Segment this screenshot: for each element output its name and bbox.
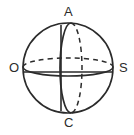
vertex-label-o: O <box>9 61 19 74</box>
meridian-back-arc-dashed <box>71 23 82 113</box>
equator-back-arc-dashed <box>23 58 113 67</box>
sphere-diagram: A C O S <box>0 0 134 135</box>
sphere-outline-circle <box>23 23 113 113</box>
vertex-label-a: A <box>64 5 73 18</box>
vertex-label-s: S <box>119 61 128 74</box>
vertex-label-c: C <box>64 116 73 129</box>
